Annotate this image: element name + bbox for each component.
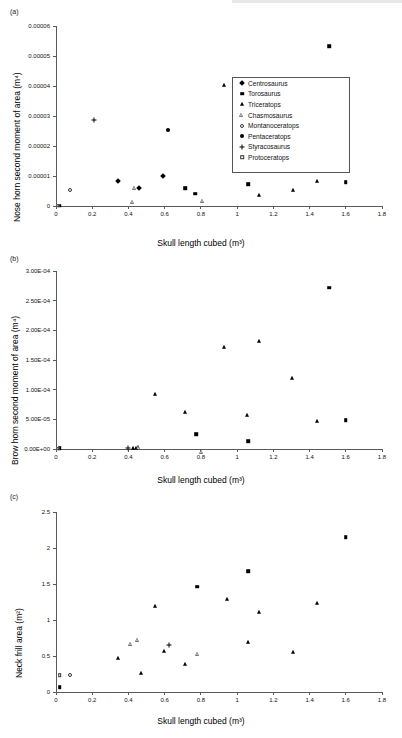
y-tick — [53, 26, 56, 27]
panel-b-xlabel: Skull length cubed (m³) — [0, 475, 402, 485]
data-point-chasmosaurus — [128, 642, 132, 646]
x-tick-label: 0.6 — [151, 697, 179, 703]
legend-label: Torosaurus — [248, 90, 281, 97]
x-tick — [92, 692, 93, 695]
panel-a: (a) Nose horn second moment of area (m⁴)… — [0, 0, 402, 253]
x-tick-label: 1.4 — [296, 454, 324, 460]
x-tick — [345, 692, 346, 695]
legend-label: Montanoceratops — [248, 122, 299, 129]
y-tick — [53, 86, 56, 87]
x-tick — [345, 449, 346, 452]
y-tick — [53, 176, 56, 177]
data-point-chasmosaurus — [201, 199, 205, 203]
x-tick — [92, 449, 93, 452]
data-point-chasmosaurus — [133, 185, 137, 189]
legend-label: Styracosaurus — [248, 143, 290, 150]
legend: CentrosaurusTorosaurusTriceratopsChasmos… — [232, 77, 350, 173]
x-tick-label: 1.6 — [332, 454, 360, 460]
x-axis-line — [56, 692, 382, 693]
panel-c: (c) Neck frill area (m²) Skull length cu… — [0, 488, 402, 738]
panel-a-xlabel: Skull length cubed (m³) — [0, 238, 402, 248]
x-tick — [309, 206, 310, 209]
y-tick-label: 0.00002 — [4, 143, 50, 149]
y-axis-line — [56, 26, 57, 206]
data-point-triceratops — [257, 192, 261, 196]
x-tick-label: 0.4 — [114, 454, 142, 460]
x-tick — [273, 692, 274, 695]
x-tick — [128, 692, 129, 695]
panel-b: (b) Brow horn second moment of area (m⁴)… — [0, 253, 402, 488]
legend-item-pentaceratops: Pentaceratops — [233, 131, 349, 142]
data-point-styracosaurus — [126, 446, 131, 451]
y-tick — [53, 300, 56, 301]
data-point-triceratops — [183, 662, 187, 666]
y-tick — [53, 656, 56, 657]
legend-marker-otri-icon — [237, 110, 247, 120]
data-point-torosaurus — [195, 585, 199, 589]
x-tick-label: 1 — [223, 697, 251, 703]
y-tick-label: 0.00E+00 — [4, 446, 50, 452]
y-tick-label: 1.00E-04 — [4, 387, 50, 393]
x-tick-label: 0.2 — [78, 454, 106, 460]
x-tick-label: 0 — [42, 211, 70, 217]
data-point-pentaceratops — [166, 128, 170, 132]
data-point-circle — [240, 134, 244, 138]
data-point-square — [240, 92, 244, 96]
y-tick-label: 2.00E-04 — [4, 327, 50, 333]
x-tick — [92, 206, 93, 209]
data-point-triceratops — [291, 188, 295, 192]
data-point-torosaurus — [344, 418, 348, 422]
x-tick-label: 1.8 — [368, 697, 396, 703]
legend-marker-ocircle-icon — [237, 121, 247, 131]
x-tick — [237, 692, 238, 695]
legend-marker-circle-icon — [237, 131, 247, 141]
x-tick-label: 1.2 — [259, 697, 287, 703]
data-point-centrosaurus — [136, 185, 142, 191]
y-tick — [53, 360, 56, 361]
data-point-chasmosaurus — [136, 638, 140, 642]
y-tick — [53, 271, 56, 272]
y-axis-line — [56, 512, 57, 692]
x-tick-label: 0.2 — [78, 211, 106, 217]
x-tick — [237, 449, 238, 452]
data-point-triceratops — [246, 640, 250, 644]
y-tick — [53, 620, 56, 621]
data-point-triceratops — [315, 179, 319, 183]
legend-marker-osquare-icon — [237, 152, 247, 162]
y-tick-label: 1.50E-04 — [4, 357, 50, 363]
x-tick — [382, 206, 383, 209]
data-point-protoceratops — [58, 674, 62, 678]
data-point-torosaurus — [184, 186, 188, 190]
x-tick-label: 0.8 — [187, 454, 215, 460]
x-tick-label: 1.4 — [296, 211, 324, 217]
y-tick — [53, 146, 56, 147]
data-point-plus — [240, 144, 245, 149]
legend-item-protoceratops: Protoceratops — [233, 152, 349, 163]
y-tick-label: 3.00E-04 — [4, 268, 50, 274]
legend-item-centrosaurus: Centrosaurus — [233, 78, 349, 89]
data-point-diamond — [239, 80, 245, 86]
x-tick-label: 0.4 — [114, 211, 142, 217]
data-point-protoceratops — [56, 447, 60, 451]
x-tick-label: 1.6 — [332, 697, 360, 703]
data-point-chasmosaurus — [200, 450, 204, 454]
x-tick — [273, 449, 274, 452]
y-tick-label: 2 — [4, 545, 50, 551]
data-point-triceratops — [222, 83, 226, 87]
x-tick-label: 1 — [223, 454, 251, 460]
x-axis-line — [56, 449, 382, 450]
x-tick — [309, 449, 310, 452]
x-tick-label: 0.4 — [114, 697, 142, 703]
legend-label: Protoceratops — [248, 154, 289, 161]
panel-c-plot-area: 00.511.522.500.20.40.60.811.21.41.61.8 — [56, 512, 382, 692]
x-tick — [382, 449, 383, 452]
y-tick-label: 0.5 — [4, 653, 50, 659]
x-tick-label: 1.8 — [368, 211, 396, 217]
legend-label: Chasmosaurus — [248, 112, 292, 119]
data-point-torosaurus — [194, 192, 198, 196]
legend-marker-tri-icon — [237, 99, 247, 109]
legend-item-torosaurus: Torosaurus — [233, 89, 349, 100]
data-point-chasmosaurus — [131, 200, 135, 204]
data-point-torosaurus — [246, 569, 250, 573]
x-tick — [309, 692, 310, 695]
